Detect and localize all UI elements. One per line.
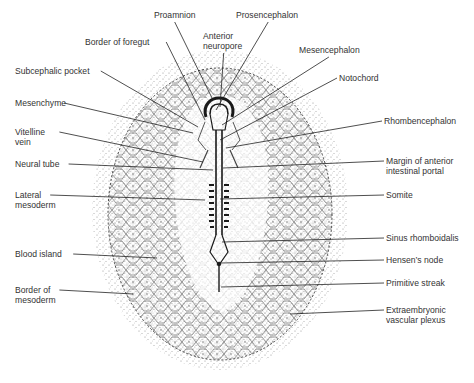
label-subcephalic-pocket: Subcephalic pocket	[15, 66, 90, 76]
label-proamnion: Proamnion	[154, 10, 196, 20]
label-rhombencephalon: Rhombencephalon	[384, 116, 456, 126]
label-blood-island: Blood island	[15, 249, 62, 259]
label-vitelline-vein: Vitelline vein	[15, 127, 45, 147]
embryo-diagram: ProamnionProsencephalonAnterior neuropor…	[0, 0, 474, 383]
label-border-of-foregut: Border of foregut	[85, 37, 150, 47]
label-somite: Somite	[386, 190, 413, 200]
label-primitive-streak: Primitive streak	[386, 278, 445, 288]
label-anterior-neuropore: Anterior neuropore	[203, 31, 242, 51]
label-mesenchyme: Mesenchyme	[15, 98, 66, 108]
label-extraembryonic-vascular-plexus: Extraembryonic vascular plexus	[386, 305, 446, 325]
label-border-of-mesoderm: Border of mesoderm	[15, 285, 56, 305]
label-lateral-mesoderm: Lateral mesoderm	[15, 190, 56, 210]
label-prosencephalon: Prosencephalon	[236, 10, 298, 20]
label-margin-anterior-intestinal-portal: Margin of anterior intestinal portal	[386, 156, 453, 176]
label-hensens-node: Hensen’s node	[386, 255, 443, 265]
label-notochord: Notochord	[339, 73, 379, 83]
label-mesencephalon: Mesencephalon	[299, 45, 360, 55]
label-sinus-rhomboidalis: Sinus rhomboidalis	[386, 233, 459, 243]
label-neural-tube: Neural tube	[15, 159, 59, 169]
